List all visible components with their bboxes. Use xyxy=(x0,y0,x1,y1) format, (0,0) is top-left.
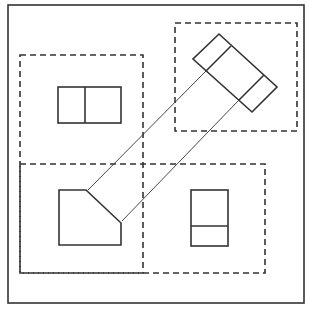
projection-line xyxy=(122,100,239,221)
views xyxy=(58,34,277,246)
projection-line xyxy=(88,71,206,190)
dashed-regions xyxy=(20,23,297,273)
front-view-rect xyxy=(58,87,121,123)
auxiliary-view-rotated-rect xyxy=(193,34,277,112)
top-view-pentagon xyxy=(59,190,121,245)
auxiliary-divider xyxy=(239,75,264,100)
auxiliary-divider xyxy=(206,46,231,71)
auxiliary-view-dividers xyxy=(206,46,264,100)
auxiliary-view-region xyxy=(175,23,297,131)
projection-lines xyxy=(88,71,239,221)
outer-frame xyxy=(8,5,304,303)
projection-diagram xyxy=(0,0,309,309)
side-view-rect xyxy=(191,190,228,246)
